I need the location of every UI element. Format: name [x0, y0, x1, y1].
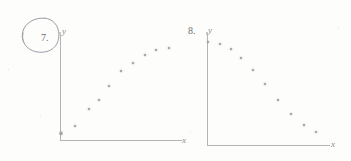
data-point — [144, 54, 147, 57]
data-point — [88, 108, 91, 111]
data-point — [155, 49, 158, 52]
data-point — [240, 57, 243, 60]
data-point — [108, 85, 111, 88]
data-point — [74, 125, 77, 128]
data-point — [315, 131, 318, 134]
data-point — [252, 69, 255, 72]
x-axis-label-8: x — [331, 140, 335, 149]
data-point — [207, 41, 210, 44]
y-axis-7 — [60, 32, 61, 141]
y-axis-label-8: y — [208, 26, 212, 35]
y-axis-8 — [207, 32, 208, 145]
figure-8: 8. y x — [183, 0, 351, 161]
data-point — [168, 47, 171, 50]
y-axis-top-cap-7 — [59, 32, 61, 35]
data-point — [120, 70, 123, 73]
data-point — [303, 124, 306, 127]
scatter-plot-7: y x — [0, 0, 196, 161]
data-point — [290, 113, 293, 116]
x-axis-7 — [60, 140, 182, 141]
scatter-plot-8: y x — [183, 0, 351, 161]
data-point — [277, 99, 280, 102]
figure-7: 7. y x — [0, 0, 196, 161]
data-point — [230, 48, 233, 51]
data-point — [264, 83, 267, 86]
data-point — [219, 43, 222, 46]
data-point — [98, 99, 101, 102]
x-axis-8 — [207, 145, 330, 146]
data-point — [132, 62, 135, 65]
y-axis-label-7: y — [62, 27, 66, 36]
data-point — [60, 133, 63, 136]
